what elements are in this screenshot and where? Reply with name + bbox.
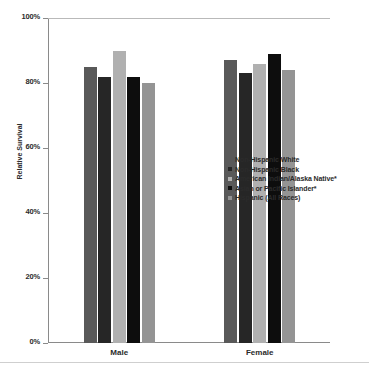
legend-item: Hispanic (All Races) xyxy=(228,194,368,201)
y-axis-tick-label: 100% xyxy=(22,12,40,21)
bar xyxy=(142,83,155,343)
bar xyxy=(127,77,140,344)
legend-swatch-icon xyxy=(228,158,232,162)
chart-legend: Non-Hispanic WhiteNon-Hispanic BlackAmer… xyxy=(228,156,368,204)
legend-item: Asian or Pacific Islander* xyxy=(228,185,368,192)
legend-item: American Indian/Alaska Native* xyxy=(228,175,368,182)
y-axis-tick-mark xyxy=(43,18,48,19)
legend-swatch-icon xyxy=(228,196,232,200)
legend-label: Non-Hispanic Black xyxy=(235,166,299,173)
y-axis-tick-label: 60% xyxy=(26,142,40,151)
y-axis-tick-label: 0% xyxy=(30,337,40,346)
y-axis-title: Relative Survival xyxy=(16,107,23,197)
y-axis-tick-label: 40% xyxy=(26,207,40,216)
bar xyxy=(84,67,97,343)
legend-label: Non-Hispanic White xyxy=(235,156,299,163)
legend-item: Non-Hispanic White xyxy=(228,156,368,163)
relative-survival-bar-chart: Relative Survival 100%80%60%40%20%0% Mal… xyxy=(0,0,369,368)
bottom-divider xyxy=(0,362,369,363)
bar xyxy=(113,51,126,344)
y-axis-tick-mark xyxy=(43,148,48,149)
legend-label: American Indian/Alaska Native* xyxy=(235,175,337,182)
bar xyxy=(239,73,252,343)
legend-swatch-icon xyxy=(228,177,232,181)
y-axis-tick-label: 80% xyxy=(26,77,40,86)
legend-swatch-icon xyxy=(228,186,232,190)
y-axis-tick-mark xyxy=(43,213,48,214)
legend-item: Non-Hispanic Black xyxy=(228,166,368,173)
y-axis-tick-label: 20% xyxy=(26,272,40,281)
bar xyxy=(282,70,295,343)
x-axis-group-label: Male xyxy=(49,348,190,357)
bar-group: Male xyxy=(49,18,190,343)
x-axis-group-label: Female xyxy=(190,348,331,357)
y-axis: Relative Survival 100%80%60%40%20%0% xyxy=(0,0,48,368)
legend-label: Hispanic (All Races) xyxy=(235,194,300,201)
y-axis-tick-mark xyxy=(43,278,48,279)
y-axis-tick-mark xyxy=(43,343,48,344)
bar xyxy=(98,77,111,344)
legend-label: Asian or Pacific Islander* xyxy=(235,185,316,192)
y-axis-tick-mark xyxy=(43,83,48,84)
legend-swatch-icon xyxy=(228,167,232,171)
